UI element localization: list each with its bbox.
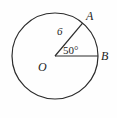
point-label-o-center: O (38, 61, 47, 73)
radius-length-label: 6 (57, 26, 63, 37)
circle-diagram-svg (0, 0, 117, 118)
point-label-a: A (86, 10, 93, 22)
point-label-b: B (101, 50, 108, 62)
central-angle-label: 50° (63, 45, 78, 56)
geometry-figure: A B O 6 50° (0, 0, 117, 118)
